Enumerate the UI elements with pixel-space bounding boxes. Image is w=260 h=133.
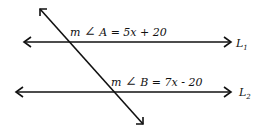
line-l1-label: L1 bbox=[235, 37, 248, 52]
angle-b-label: m ∠ B = 7x - 20 bbox=[111, 73, 202, 89]
parallel-lines-diagram: m ∠ A = 5x + 20 m ∠ B = 7x - 20 L1 L2 bbox=[0, 0, 260, 133]
angle-a-label: m ∠ A = 5x + 20 bbox=[70, 23, 167, 39]
line-l2-label: L2 bbox=[238, 86, 251, 101]
